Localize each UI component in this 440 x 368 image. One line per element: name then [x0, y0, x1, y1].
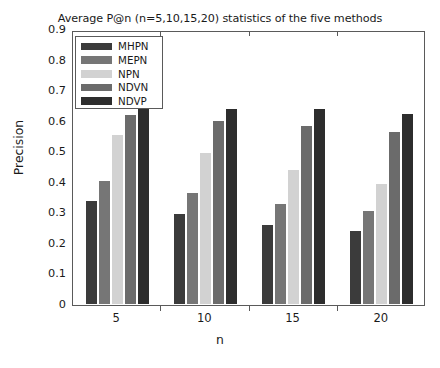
legend-label: NDVP	[118, 96, 147, 106]
bar-ndvp-n10	[225, 108, 238, 305]
bar-mhpn-n10	[173, 213, 186, 305]
legend-swatch-icon	[80, 42, 113, 52]
bar-npn-n5	[111, 134, 124, 305]
bar-npn-n20	[375, 183, 388, 305]
bar-mhpn-n5	[85, 200, 98, 305]
bar-chart-figure: Average P@n (n=5,10,15,20) statistics of…	[0, 0, 440, 368]
x-tick-label: 5	[86, 311, 146, 325]
y-tick-label: 0.8	[0, 54, 74, 67]
legend-swatch-icon	[80, 55, 113, 65]
y-tick-label: 0	[0, 298, 74, 311]
x-tick-mark-top	[337, 31, 338, 36]
bar-mepn-n5	[98, 180, 111, 305]
chart-legend: MHPNMEPNNPNNDVNNDVP	[75, 36, 163, 109]
bar-mepn-n20	[362, 210, 375, 305]
bar-npn-n10	[199, 152, 212, 305]
x-tick-mark	[160, 306, 161, 311]
bar-ndvn-n10	[212, 120, 225, 305]
legend-item-npn[interactable]: NPN	[80, 67, 162, 80]
bar-ndvp-n20	[401, 113, 414, 306]
legend-item-mhpn[interactable]: MHPN	[80, 40, 162, 53]
bar-ndvn-n15	[300, 125, 313, 305]
legend-item-ndvp[interactable]: NDVP	[80, 94, 162, 107]
bar-mhpn-n15	[261, 224, 274, 305]
y-tick-label: 0.2	[0, 237, 74, 250]
bar-mepn-n15	[274, 203, 287, 305]
bar-ndvn-n20	[388, 131, 401, 305]
y-tick-label: 0.7	[0, 84, 74, 97]
x-tick-mark	[337, 306, 338, 311]
bar-ndvp-n5	[137, 108, 150, 305]
y-tick-label: 0.5	[0, 145, 74, 158]
legend-label: NDVN	[118, 82, 148, 92]
legend-swatch-icon	[80, 83, 113, 93]
x-tick-label: 10	[174, 311, 234, 325]
legend-label: MEPN	[118, 55, 147, 65]
bar-ndvp-n15	[313, 108, 326, 305]
y-tick-label: 0.9	[0, 23, 74, 36]
legend-label: NPN	[118, 69, 140, 79]
y-tick-label: 0.4	[0, 176, 74, 189]
x-tick-mark	[249, 306, 250, 311]
bar-ndvn-n5	[124, 114, 137, 305]
y-tick-label: 0.3	[0, 206, 74, 219]
x-axis-label: n	[0, 332, 440, 347]
bar-mepn-n10	[186, 192, 199, 305]
x-tick-mark-top	[249, 31, 250, 36]
x-tick-label: 20	[351, 311, 411, 325]
bar-mhpn-n20	[349, 230, 362, 305]
legend-item-ndvn[interactable]: NDVN	[80, 81, 162, 94]
y-tick-label: 0.6	[0, 115, 74, 128]
legend-label: MHPN	[118, 41, 149, 51]
x-tick-label: 15	[263, 311, 323, 325]
legend-swatch-icon	[80, 96, 113, 106]
bar-npn-n15	[287, 169, 300, 305]
legend-swatch-icon	[80, 69, 113, 79]
y-tick-label: 0.1	[0, 267, 74, 280]
legend-item-mepn[interactable]: MEPN	[80, 54, 162, 67]
